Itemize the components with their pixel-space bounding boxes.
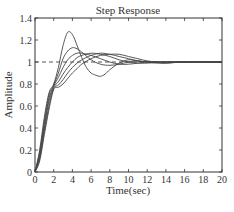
x-tick-label: 6 — [89, 174, 94, 185]
x-tick-label: 8 — [107, 174, 112, 185]
y-axis-label: Amplitude — [2, 71, 14, 118]
x-tick-label: 10 — [124, 174, 134, 185]
chart-title: Step Response — [96, 4, 161, 16]
x-tick-label: 20 — [217, 174, 227, 185]
axes-box — [35, 18, 222, 172]
y-tick-label: 0.6 — [20, 101, 33, 112]
step-response-chart: Step Response Amplitude Time(sec) 024681… — [0, 0, 234, 212]
y-tick-label: 0.8 — [20, 79, 33, 90]
plot-area: 0246810121416182000.20.40.60.811.21.4 — [20, 13, 228, 186]
series-line-response-4 — [35, 53, 222, 172]
x-tick-label: 18 — [198, 174, 208, 185]
x-tick-label: 14 — [161, 174, 171, 185]
series-line-response-5 — [35, 53, 222, 172]
y-tick-label: 0 — [27, 167, 32, 178]
series-line-response-3 — [35, 53, 222, 172]
y-tick-label: 1.4 — [20, 13, 33, 24]
y-tick-label: 0.4 — [20, 123, 33, 134]
x-tick-label: 12 — [142, 174, 152, 185]
series-line-response-2 — [35, 48, 222, 172]
x-axis-label: Time(sec) — [106, 184, 151, 197]
y-tick-label: 1 — [27, 57, 32, 68]
y-tick-label: 1.2 — [20, 35, 33, 46]
series-line-response-6 — [35, 54, 222, 172]
series-line-response-1 — [35, 32, 222, 172]
y-tick-label: 0.2 — [20, 145, 33, 156]
x-tick-label: 0 — [33, 174, 38, 185]
x-tick-label: 16 — [180, 174, 190, 185]
x-tick-label: 2 — [51, 174, 56, 185]
x-tick-label: 4 — [70, 174, 75, 185]
